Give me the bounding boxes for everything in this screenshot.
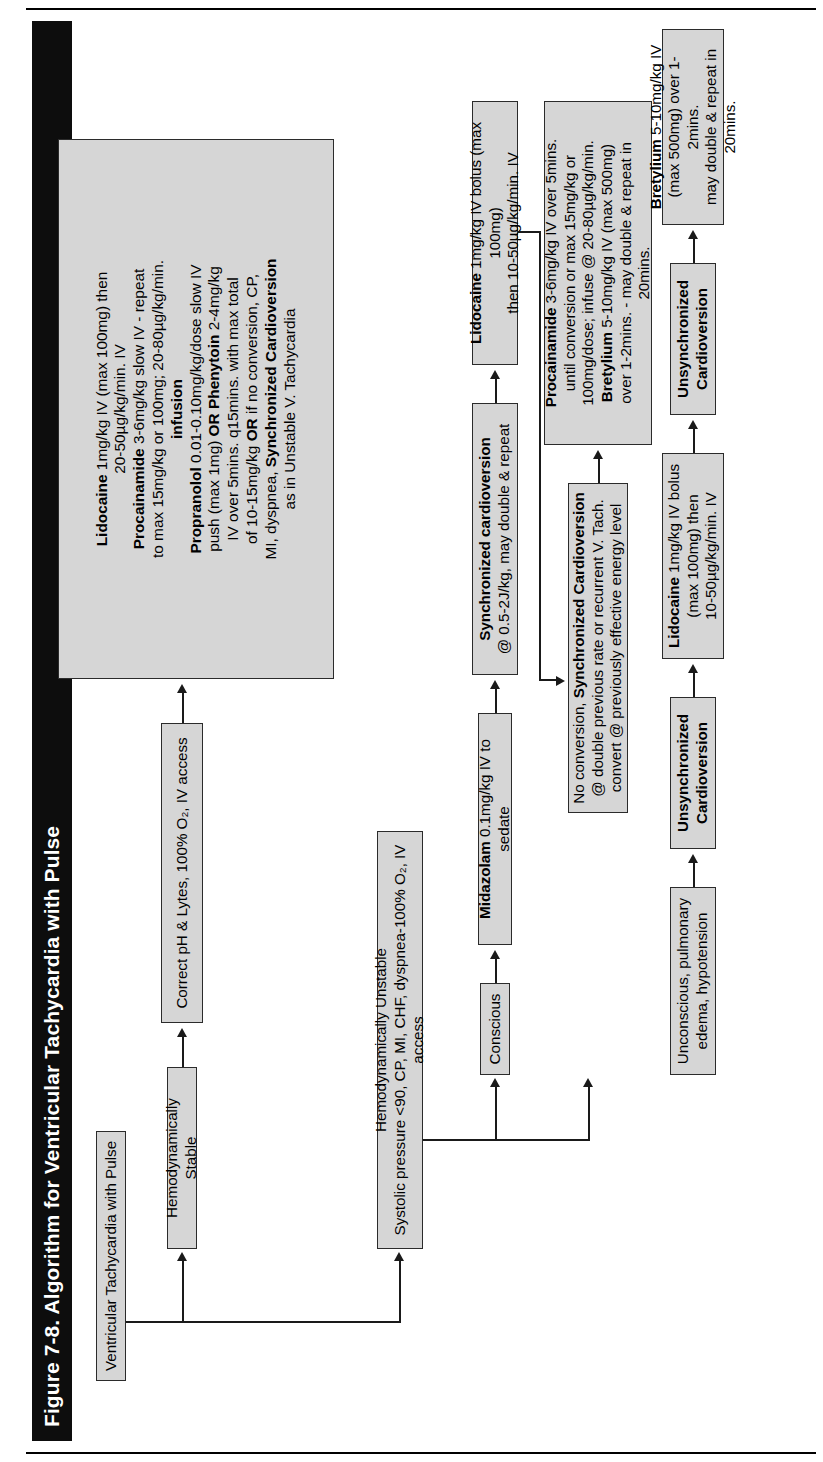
drug-name-lidocaine: Lidocaine — [665, 577, 682, 648]
connector-conscious-to-midazolam — [495, 957, 497, 983]
connector-unstable-to-unconscious — [588, 1087, 590, 1141]
drug-detail: 3-6mg/kg slow IV - repeat — [130, 269, 147, 449]
procedure-detail: @ double previous rate or recurrent V. T… — [588, 491, 607, 805]
connector-noconversion-to-procainamide — [598, 457, 600, 483]
node-text-block: Lidocaine 1mg/kg IV bolus (max 100mg) th… — [467, 109, 523, 357]
page-bottom-rule — [26, 1452, 816, 1454]
drug-detail: 1mg/kg IV bolus — [665, 464, 682, 577]
arrow-root-to-unstable — [394, 1252, 404, 1261]
node-text-block: Lidocaine 1mg/kg IV bolus (max 100mg) th… — [665, 461, 721, 651]
drug-detail: over 1-2mins. - may double & repeat in — [616, 109, 635, 437]
drug-detail: then 10-50µg/kg/min. IV — [504, 109, 523, 357]
node-text-block: Lidocaine 1mg/kg IV (max 100mg) then 20-… — [92, 147, 299, 671]
connector-correct-to-drugs — [182, 691, 184, 723]
connector-midazolam-to-synccardio — [495, 687, 497, 713]
arrow-unstable-to-unconscious — [583, 1078, 593, 1087]
connector-unconscious-to-unsync1 — [693, 861, 695, 887]
node-label: Hemodynamically Stable — [163, 1075, 200, 1241]
connector-unstable-trunk — [423, 1139, 589, 1141]
arrow-noconversion-to-procainamide — [593, 450, 603, 459]
drug-detail-infusion: infusion — [167, 379, 184, 439]
arrow-conscious-to-midazolam — [490, 950, 500, 959]
node-ventricular-tachycardia-with-pulse: Ventricular Tachycardia with Pulse — [96, 1131, 126, 1381]
node-midazolam: Midazolam 0.1mg/kg IV to sedate — [478, 713, 512, 945]
drug-name-lidocaine: Lidocaine — [92, 474, 109, 546]
connector-lidocaine-to-noconversion-v — [518, 231, 540, 233]
drug-detail: 1mg/kg IV bolus (max 100mg) — [467, 122, 503, 273]
procedure-detail: convert @ previously effective energy le… — [607, 491, 626, 805]
connector-root-to-stable — [182, 1261, 184, 1323]
arrow-correct-to-drugs — [177, 684, 187, 693]
drug-detail: 0.01-0.10mg/kg/dose slow IV — [186, 264, 203, 467]
connector-lidocaine-to-unsync2 — [693, 427, 695, 453]
connector-unsync1-to-lidocaine — [693, 671, 695, 697]
page-top-rule — [26, 8, 816, 10]
figure-title: Figure 7-8. Algorithm for Ventricular Ta… — [32, 826, 72, 1427]
node-no-conversion-sync-cardioversion: No conversion, Synchronized Cardioversio… — [568, 483, 628, 813]
arrow-unconscious-to-unsync1 — [688, 854, 698, 863]
drug-name-propranolol: Propranolol — [186, 467, 203, 553]
node-procainamide-bretylium: Procainamide 3-6mg/kg IV over 5mins. unt… — [544, 101, 652, 445]
node-text-block: Procainamide 3-6mg/kg IV over 5mins. unt… — [542, 109, 653, 437]
node-label-line2: edema, hypotension — [693, 895, 712, 1067]
node-lidocaine-conscious: Lidocaine 1mg/kg IV bolus (max 100mg) th… — [472, 101, 518, 365]
node-text-block: Unsynchronized Cardioversion — [674, 705, 711, 841]
connector-stable-to-correct — [182, 1035, 184, 1067]
node-text-block: Hemodynamically Unstable Systolic pressu… — [372, 839, 428, 1241]
drug-detail: (max 500mg) over 1-2mins. — [665, 37, 702, 217]
procedure-name-line1: Unsynchronized — [674, 705, 693, 841]
drug-detail: 0.1mg/kg IV to sedate — [476, 739, 512, 852]
arrow-synccardio-to-lidocaine — [490, 370, 500, 379]
drug-detail: as in Unstable V. Tachycardia — [280, 308, 297, 509]
node-text-block: Bretylium 5-10mg/kg IV (max 500mg) over … — [646, 37, 739, 217]
node-label-line1: Unconscious, pulmonary — [674, 895, 693, 1067]
node-unsynchronized-cardioversion-1: Unsynchronized Cardioversion — [670, 697, 716, 849]
node-text-block: Unsynchronized Cardioversion — [674, 271, 711, 407]
arrow-midazolam-to-synccardio — [490, 680, 500, 689]
node-text-block: Synchronized cardioversion @ 0.5-2J/kg, … — [476, 411, 513, 667]
drug-detail: 20-50µg/kg/min. IV — [111, 344, 128, 474]
node-label: Correct pH & Lytes, 100% O₂, IV access — [172, 731, 191, 1015]
connector-unstable-to-conscious — [495, 1087, 497, 1141]
node-label: Ventricular Tachycardia with Pulse — [101, 1139, 120, 1373]
node-correct-ph-lytes: Correct pH & Lytes, 100% O₂, IV access — [161, 723, 203, 1023]
drug-detail: 5-10mg/kg IV (max 500mg) — [598, 144, 615, 332]
connector-lidocaine-to-noconversion-h — [539, 231, 541, 681]
procedure-detail: @ 0.5-2J/kg, may double & repeat — [495, 411, 514, 667]
drug-detail: 10-50µg/kg/min. IV — [702, 461, 721, 651]
connector-synccardio-to-lidocaine — [495, 377, 497, 403]
node-unsynchronized-cardioversion-2: Unsynchronized Cardioversion — [670, 263, 716, 415]
node-lidocaine-unconscious: Lidocaine 1mg/kg IV bolus (max 100mg) th… — [662, 453, 724, 659]
drug-detail: 5-10mg/kg IV — [646, 45, 663, 140]
drug-detail: until conversion or max 15mg/kg or — [560, 109, 579, 437]
drug-name-procainamide: Procainamide — [130, 448, 147, 549]
node-bretylium-unconscious: Bretylium 5-10mg/kg IV (max 500mg) over … — [662, 29, 724, 225]
arrow-unsync1-to-lidocaine — [688, 664, 698, 673]
drug-detail: 100mg/dose; infuse @ 20-80µg/kg/min. — [579, 109, 598, 437]
drug-name-midazolam: Midazolam — [476, 841, 493, 919]
node-label-line1: Hemodynamically Unstable — [372, 839, 391, 1241]
node-hemodynamically-unstable: Hemodynamically Unstable Systolic pressu… — [377, 831, 423, 1249]
connector-root-trunk — [126, 1321, 400, 1323]
drug-detail: 1mg/kg IV (max 100mg) then — [92, 272, 109, 475]
drug-detail: (max 100mg) then — [683, 461, 702, 651]
drug-name-bretylium: Bretylium — [646, 139, 663, 209]
drug-name-procainamide: Procainamide — [542, 308, 559, 408]
connector-unsync2-to-bretylium — [693, 237, 695, 263]
node-unconscious: Unconscious, pulmonary edema, hypotensio… — [670, 887, 716, 1075]
node-label-line2: Systolic pressure <90, CP, MI, CHF, dysp… — [390, 839, 427, 1241]
procedure-name: Synchronized cardioversion — [476, 437, 493, 640]
drug-name-lidocaine: Lidocaine — [467, 273, 484, 344]
figure-page: Figure 7-8. Algorithm for Ventricular Ta… — [0, 0, 823, 1462]
drug-name-bretylium: Bretylium — [598, 332, 615, 402]
arrow-lidocaine-to-unsync2 — [688, 420, 698, 429]
node-hemodynamically-stable: Hemodynamically Stable — [167, 1067, 197, 1249]
node-conscious: Conscious — [480, 983, 510, 1075]
drug-detail: may double & repeat in 20mins. — [702, 37, 739, 217]
procedure-name-line2: Cardioversion — [693, 705, 712, 841]
arrow-lidocaine-to-noconversion — [556, 676, 565, 686]
node-synchronized-cardioversion-dose: Synchronized cardioversion @ 0.5-2J/kg, … — [472, 403, 518, 675]
drug-detail: 3-6mg/kg IV over 5mins. — [542, 139, 559, 308]
node-label: Conscious — [485, 991, 504, 1067]
procedure-name-line1: Unsynchronized — [674, 271, 693, 407]
